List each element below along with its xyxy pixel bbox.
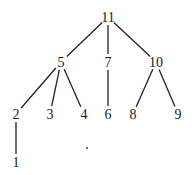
edge-5-3 (52, 70, 60, 106)
node-8: 8 (130, 107, 137, 122)
tree-svg: 1157102346891 (0, 0, 192, 175)
node-1: 1 (13, 155, 20, 170)
node-10: 10 (149, 55, 163, 70)
node-3: 3 (47, 107, 54, 122)
node-2: 2 (13, 107, 20, 122)
edge-11-5 (67, 23, 102, 57)
node-7: 7 (105, 55, 112, 70)
node-11: 11 (101, 10, 114, 25)
node-6: 6 (105, 107, 112, 122)
tree-diagram: 1157102346891 (0, 0, 192, 175)
edge-5-4 (64, 69, 81, 106)
node-9: 9 (175, 107, 182, 122)
edges-group (16, 23, 175, 155)
edge-10-9 (159, 69, 175, 106)
stray-dot (86, 147, 88, 149)
edge-10-8 (136, 69, 153, 106)
nodes-group: 1157102346891 (13, 10, 182, 170)
edge-11-10 (114, 23, 150, 57)
node-5: 5 (58, 55, 65, 70)
node-4: 4 (81, 107, 88, 122)
edge-5-2 (21, 68, 56, 108)
